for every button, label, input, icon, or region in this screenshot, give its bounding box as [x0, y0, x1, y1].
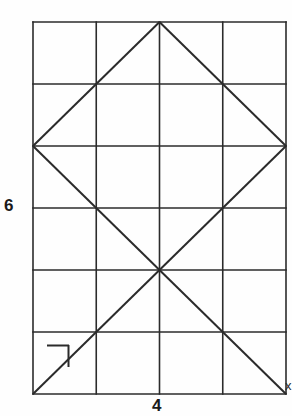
- geometry-figure: [0, 0, 292, 416]
- diagram-root: 6 4 x: [0, 0, 292, 416]
- height-label: 6: [4, 197, 13, 214]
- axis-tip-label: x: [285, 379, 292, 392]
- width-label: 4: [152, 397, 161, 414]
